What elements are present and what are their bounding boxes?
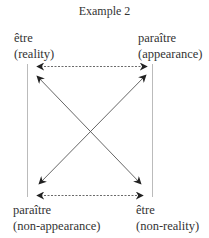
diagonal-arrow-tr-bl: [39, 75, 146, 184]
diagonal-arrow-tl-br: [37, 76, 141, 184]
semiotic-square: [0, 0, 209, 238]
